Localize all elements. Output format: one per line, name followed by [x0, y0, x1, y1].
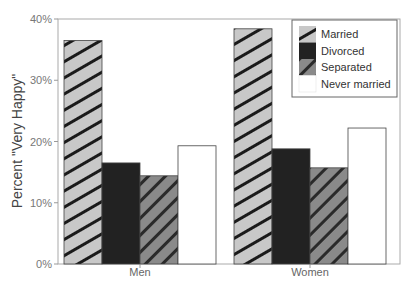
x-axis: MenWomen — [129, 264, 329, 278]
legend-label: Separated — [321, 61, 372, 73]
x-category-label: Women — [291, 266, 329, 278]
y-tick-label: 20% — [30, 136, 52, 148]
y-tick-label: 40% — [30, 13, 52, 25]
x-category-label: Men — [129, 266, 150, 278]
y-axis: 0%10%20%30%40% — [30, 13, 58, 270]
legend-swatch-married — [299, 26, 316, 43]
bar-men-divorced — [102, 163, 140, 264]
bar-men-married — [64, 40, 102, 264]
legend-swatch-separated — [299, 59, 316, 76]
bar-women-separated — [310, 168, 348, 264]
bar-women-divorced — [272, 149, 310, 264]
y-tick-label: 10% — [30, 197, 52, 209]
y-tick-label: 0% — [36, 258, 52, 270]
legend-label: Divorced — [321, 45, 364, 57]
legend-swatch-divorced — [299, 43, 316, 60]
legend: MarriedDivorcedSeparatedNever married — [292, 20, 397, 97]
bar-women-married — [234, 29, 272, 264]
bar-chart: 0%10%20%30%40% Percent "Very Happy" MenW… — [0, 0, 413, 291]
legend-swatch-never-married — [299, 76, 316, 93]
bar-women-never-married — [348, 128, 386, 264]
y-tick-label: 30% — [30, 74, 52, 86]
y-axis-label: Percent "Very Happy" — [9, 74, 25, 208]
legend-label: Never married — [321, 78, 391, 90]
legend-label: Married — [321, 28, 358, 40]
bar-men-never-married — [178, 146, 216, 264]
bar-men-separated — [140, 176, 178, 264]
